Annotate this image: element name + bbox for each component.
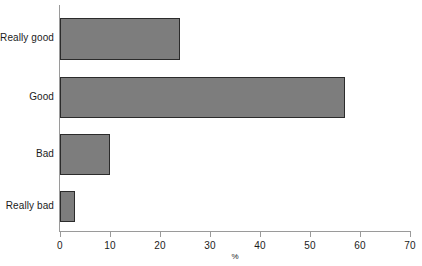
- x-tick-mark: [260, 231, 261, 237]
- x-tick-label: 70: [404, 240, 416, 251]
- x-tick-mark: [110, 231, 111, 237]
- x-tick-mark: [360, 231, 361, 237]
- bar: [60, 191, 75, 222]
- category-label: Really good: [0, 32, 54, 43]
- category-label: Really bad: [0, 200, 54, 211]
- x-tick-mark: [310, 231, 311, 237]
- x-tick-mark: [160, 231, 161, 237]
- x-tick-mark: [410, 231, 411, 237]
- x-tick-label: 60: [354, 240, 366, 251]
- bar: [60, 134, 110, 175]
- category-label: Good: [0, 91, 54, 102]
- bar: [60, 18, 180, 60]
- x-tick-label: 20: [154, 240, 166, 251]
- x-tick-label: 0: [57, 240, 63, 251]
- bar-chart: Really goodGoodBadReally bad 01020304050…: [0, 0, 422, 266]
- x-tick-label: 50: [304, 240, 316, 251]
- bar: [60, 77, 345, 118]
- x-tick-label: 10: [104, 240, 116, 251]
- x-tick-label: 30: [204, 240, 216, 251]
- category-label: Bad: [0, 148, 54, 159]
- x-axis-title: %: [231, 252, 238, 261]
- x-tick-label: 40: [254, 240, 266, 251]
- x-axis-line: [59, 231, 411, 232]
- x-tick-mark: [60, 231, 61, 237]
- x-tick-mark: [210, 231, 211, 237]
